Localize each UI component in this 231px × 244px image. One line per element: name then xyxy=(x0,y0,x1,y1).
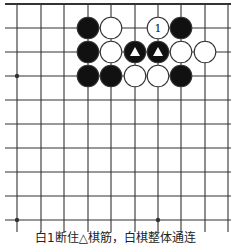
white-stone xyxy=(147,65,169,87)
go-board: 1 xyxy=(0,0,231,232)
black-stone xyxy=(77,17,99,39)
black-stone xyxy=(77,41,99,63)
white-stone xyxy=(194,41,216,63)
move-number-label: 1 xyxy=(155,22,162,35)
diagram-caption: 白1断住△棋筋，白棋整体通连 xyxy=(0,231,231,244)
black-stone xyxy=(170,65,192,87)
white-stone xyxy=(170,41,192,63)
black-stone xyxy=(147,41,169,63)
star-point xyxy=(156,218,160,222)
white-stone: 1 xyxy=(147,17,169,39)
black-stone xyxy=(170,17,192,39)
white-stone xyxy=(100,41,122,63)
white-stone xyxy=(124,65,146,87)
black-stone xyxy=(77,65,99,87)
black-stone xyxy=(100,65,122,87)
star-point xyxy=(15,218,19,222)
black-stone xyxy=(124,41,146,63)
white-stone xyxy=(100,17,122,39)
star-point xyxy=(15,74,19,78)
